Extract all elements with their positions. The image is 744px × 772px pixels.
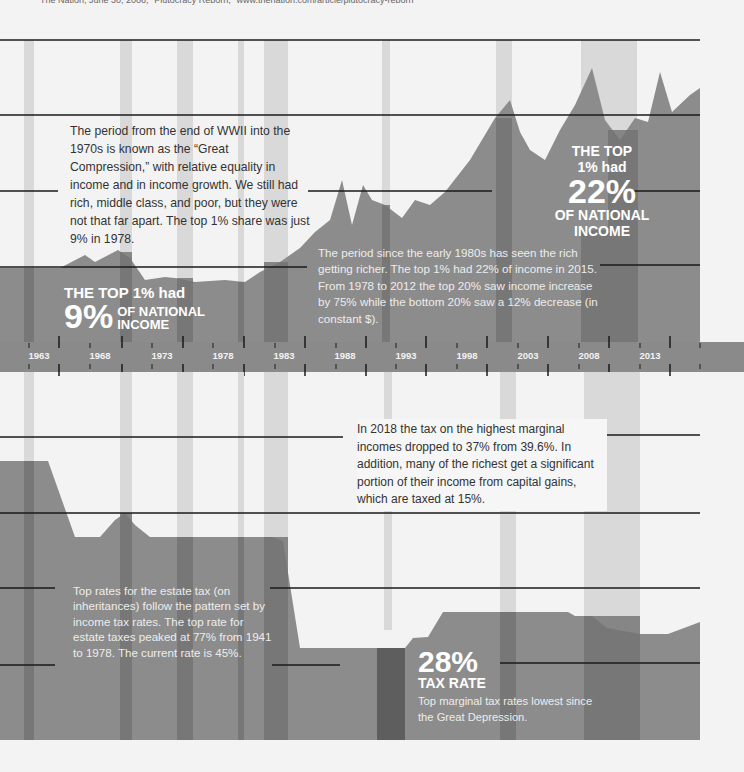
stat-28-label: TAX RATE <box>418 676 598 691</box>
stat-28-caption: Top marginal tax rates lowest since the … <box>418 693 598 725</box>
timeline-label-1978: 1978 <box>203 350 243 361</box>
stat-28-value: 28% <box>418 648 598 676</box>
stat-22-value: 22% <box>548 175 656 207</box>
stat-28-percent: 28% TAX RATE Top marginal tax rates lowe… <box>418 648 598 725</box>
timeline-label-1988: 1988 <box>325 350 365 361</box>
note-2018-tax: In 2018 the tax on the highest marginal … <box>357 419 607 511</box>
timeline-label-1963: 1963 <box>19 350 59 361</box>
stat-9-line3: INCOME <box>117 318 205 331</box>
timeline-label-2008: 2008 <box>569 350 609 361</box>
stat-22-line4: INCOME <box>548 223 656 239</box>
stat-22-percent: THE TOP 1% had 22% OF NATIONAL INCOME <box>548 143 656 239</box>
lowest-rate-highlight <box>377 648 405 740</box>
stat-9-percent: THE TOP 1% had 9% OF NATIONAL INCOME <box>64 285 205 331</box>
timeline-label-1983: 1983 <box>264 350 304 361</box>
timeline-label-1993: 1993 <box>386 350 426 361</box>
timeline-label-1998: 1998 <box>447 350 487 361</box>
timeline-label-1968: 1968 <box>80 350 120 361</box>
stat-9-value: 9% <box>64 301 113 331</box>
timeline-label-1973: 1973 <box>142 350 182 361</box>
stat-22-line3: OF NATIONAL <box>548 207 656 223</box>
timeline-label-2003: 2003 <box>508 350 548 361</box>
note-estate-tax: Top rates for the estate tax (on inherit… <box>73 583 273 660</box>
note-since-1980s: The period since the early 1980s has see… <box>318 245 598 327</box>
stat-22-line1: THE TOP <box>548 143 656 159</box>
note-great-compression: The period from the end of WWII into the… <box>70 122 310 248</box>
timeline-label-2013: 2013 <box>630 350 670 361</box>
